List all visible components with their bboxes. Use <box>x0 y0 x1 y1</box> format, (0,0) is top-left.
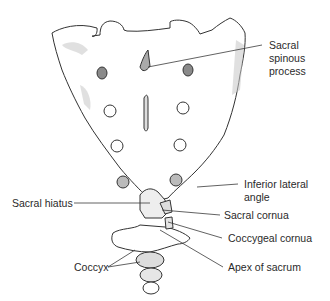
coccyx-segment-1 <box>112 225 190 252</box>
label-sacral-spinous-process: Sacral spinous process <box>269 39 306 78</box>
coccyx-segment-4 <box>143 282 159 294</box>
coccyx-segment-3 <box>140 268 162 282</box>
foramen-2r <box>177 102 189 114</box>
foramen-3l <box>111 140 123 152</box>
foramen-2l <box>104 105 116 117</box>
label-coccygeal-cornua: Coccygeal cornua <box>228 232 312 245</box>
foramen-1l <box>97 67 107 79</box>
sacrum-diagram: Sacral spinous process Inferior lateral … <box>0 0 330 301</box>
label-apex-of-sacrum: Apex of sacrum <box>228 261 301 274</box>
median-crest <box>144 95 148 131</box>
label-inferior-lateral-angle: Inferior lateral angle <box>244 178 308 204</box>
coccyx-segment-2 <box>136 252 164 268</box>
foramen-3r <box>174 139 186 151</box>
foramen-4r <box>170 174 182 186</box>
label-sacral-hiatus: Sacral hiatus <box>12 197 73 210</box>
label-sacral-cornua: Sacral cornua <box>224 209 289 222</box>
label-coccyx: Coccyx <box>74 261 108 274</box>
foramen-1r <box>183 64 193 76</box>
foramen-4l <box>117 176 129 188</box>
